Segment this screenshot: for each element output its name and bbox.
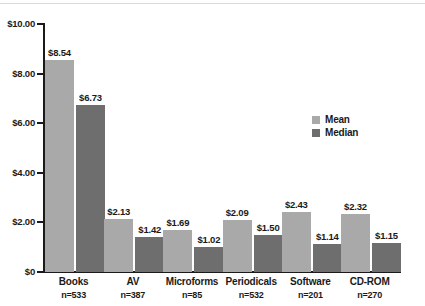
bar-value-label-median: $1.15 [366, 230, 407, 241]
y-axis-tick [37, 271, 45, 273]
bar-value-label-mean: $8.54 [39, 47, 80, 58]
y-axis-tick [37, 73, 45, 75]
bar-value-label-mean: $2.32 [335, 201, 376, 212]
y-axis-tick [37, 172, 45, 174]
bar-median [76, 105, 105, 272]
page-top-rule [0, 3, 425, 4]
y-axis-tick [37, 221, 45, 223]
chart-legend: MeanMedian [312, 110, 358, 136]
bar-value-label-median: $6.73 [70, 92, 111, 103]
bar-value-label-mean: $2.09 [217, 207, 258, 218]
y-axis-tick [37, 122, 45, 124]
bar-median [313, 244, 342, 272]
legend-swatch-median [312, 129, 320, 137]
bar-value-label-mean: $2.13 [98, 206, 139, 217]
bar-mean [341, 214, 370, 272]
bar-median [372, 243, 401, 272]
y-axis-tick-label: $4.00 [0, 167, 35, 178]
y-axis-tick-label: $2.00 [0, 216, 35, 227]
bar-chart: $10.00$8.00$6.00$4.00$2.00$0 $8.54$6.73$… [0, 0, 425, 306]
bar-median [135, 237, 164, 272]
legend-item: Median [312, 123, 358, 136]
y-axis-tick-label: $8.00 [0, 68, 35, 79]
legend-item: Mean [312, 110, 358, 123]
bar-median [254, 235, 283, 272]
bar-median [194, 247, 223, 272]
legend-label: Median [325, 127, 358, 138]
y-axis-tick [37, 23, 45, 25]
y-axis-tick-label: $0 [0, 266, 35, 277]
bar-mean [282, 212, 311, 272]
bar-value-label-mean: $1.69 [157, 217, 198, 228]
x-axis-category-label: CD-ROM [331, 276, 408, 287]
y-axis-tick-label: $6.00 [0, 117, 35, 128]
y-axis-tick-label: $10.00 [0, 18, 35, 29]
x-axis-category-count: n=270 [331, 290, 408, 300]
bar-value-label-mean: $2.43 [276, 199, 317, 210]
